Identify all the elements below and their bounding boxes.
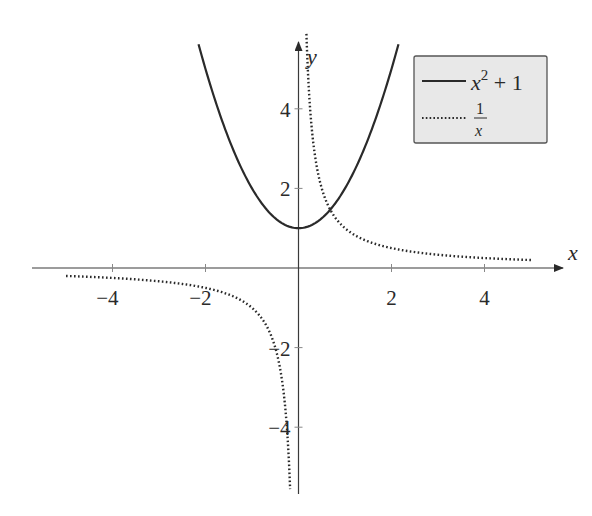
legend-label-reciprocal-denominator: x <box>474 122 482 139</box>
y-ticks: −4−224 <box>268 98 302 440</box>
x-tick-label: 4 <box>479 286 490 310</box>
chart: −4−224 −4−224 x y x2 + 1 1 x <box>0 0 592 516</box>
legend-label-reciprocal-numerator: 1 <box>476 100 484 117</box>
legend: x2 + 1 1 x <box>414 56 547 143</box>
x-axis-label: x <box>567 240 578 265</box>
legend-label-parabola: x2 + 1 <box>470 67 523 95</box>
y-tick-label: −2 <box>268 337 290 361</box>
x-tick-label: 2 <box>386 286 397 310</box>
x-tick-label: −2 <box>189 286 211 310</box>
y-axis-label: y <box>305 44 317 69</box>
y-tick-label: 2 <box>280 177 291 201</box>
x-tick-label: −4 <box>96 286 119 310</box>
x-ticks: −4−224 <box>96 264 490 310</box>
y-tick-label: 4 <box>280 98 291 122</box>
